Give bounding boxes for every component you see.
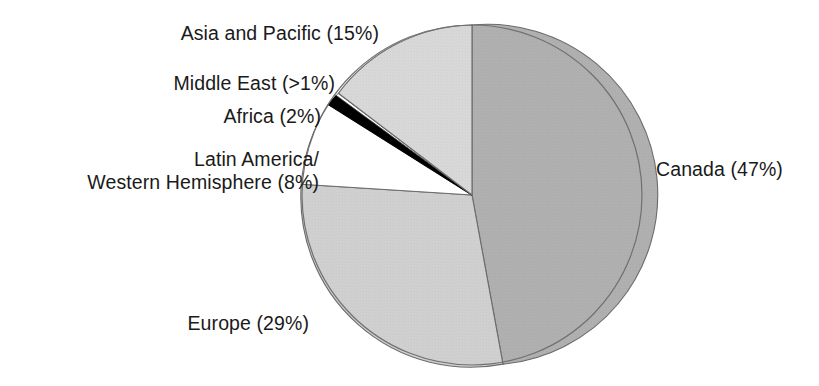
slice-label-latin-america-line1: Latin America/ [87, 148, 319, 171]
pie-slice-canada-texture [472, 24, 658, 364]
slice-label-latin-america-line2: Western Hemisphere (8%) [87, 171, 319, 194]
slice-label-europe: Europe (29%) [187, 312, 309, 335]
slice-label-canada: Canada (47%) [656, 158, 783, 181]
pie-chart-figure: Asia and Pacific (15%) Middle East (>1%)… [0, 0, 819, 386]
slice-label-asia-pacific: Asia and Pacific (15%) [181, 22, 379, 45]
pie-slices [301, 24, 658, 367]
slice-label-latin-america: Latin America/ Western Hemisphere (8%) [87, 148, 319, 194]
pie-slice-europe-texture [301, 184, 503, 367]
slice-label-middle-east: Middle East (>1%) [173, 72, 335, 95]
slice-label-africa: Africa (2%) [223, 105, 321, 128]
